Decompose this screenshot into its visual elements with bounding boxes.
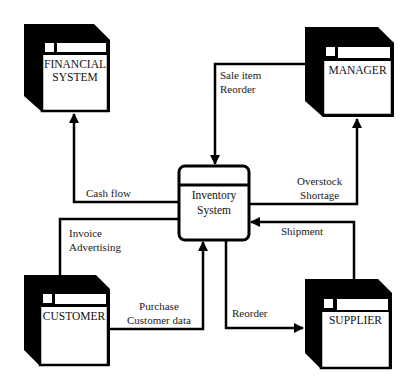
flow-sale-item-label: Sale item Reorder (220, 68, 261, 96)
flow-reorder-label: Reorder (232, 306, 267, 320)
flow-purchase-line2: Customer data (127, 313, 191, 327)
entity-financial-line2: SYSTEM (42, 71, 108, 84)
process-label-line2: System (179, 203, 249, 218)
flow-overstock-line2: Shortage (297, 188, 342, 202)
process-label: Inventory System (179, 188, 249, 218)
entity-supplier-label: SUPPLIER (321, 314, 390, 327)
entity-manager-label: MANAGER (323, 64, 392, 77)
entity-financial-line1: FINANCIAL (42, 58, 108, 71)
flow-overstock-label: Overstock Shortage (297, 174, 342, 202)
process-label-line1: Inventory (179, 188, 249, 203)
flow-invoice-label: Invoice Advertising (69, 226, 121, 254)
flow-sale-item-line2: Reorder (220, 82, 261, 96)
entity-financial-label: FINANCIAL SYSTEM (42, 58, 108, 84)
flow-overstock-line1: Overstock (297, 174, 342, 188)
flow-sale-item-line1: Sale item (220, 68, 261, 82)
flow-purchase-line1: Purchase (127, 299, 191, 313)
flow-invoice-line1: Invoice (69, 226, 121, 240)
flow-shipment-label: Shipment (281, 224, 323, 238)
flow-invoice-line2: Advertising (69, 240, 121, 254)
context-diagram: FINANCIAL SYSTEM MANAGER CUSTOMER SUPPLI… (0, 0, 414, 390)
flow-cash-flow-label: Cash flow (86, 186, 131, 200)
entity-customer-label: CUSTOMER (40, 310, 108, 323)
flow-purchase-label: Purchase Customer data (127, 299, 191, 327)
